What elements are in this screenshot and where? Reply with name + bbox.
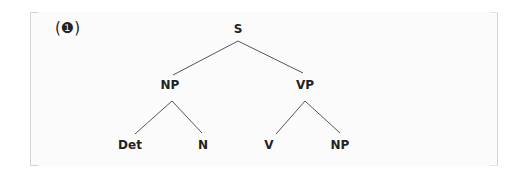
syntax-tree-edges — [0, 0, 526, 174]
node-np: NP — [161, 78, 180, 92]
node-np-object: NP — [331, 138, 350, 152]
edge-s-vp — [238, 41, 303, 73]
edge-np-det — [135, 101, 172, 134]
node-s: S — [234, 22, 243, 36]
node-v: V — [264, 138, 273, 152]
node-n: N — [198, 138, 208, 152]
edge-vp-np — [305, 101, 340, 133]
edge-s-np — [173, 41, 238, 75]
edge-np-n — [172, 101, 202, 133]
edge-vp-v — [276, 101, 305, 134]
node-vp: VP — [296, 78, 314, 92]
node-det: Det — [118, 138, 142, 152]
